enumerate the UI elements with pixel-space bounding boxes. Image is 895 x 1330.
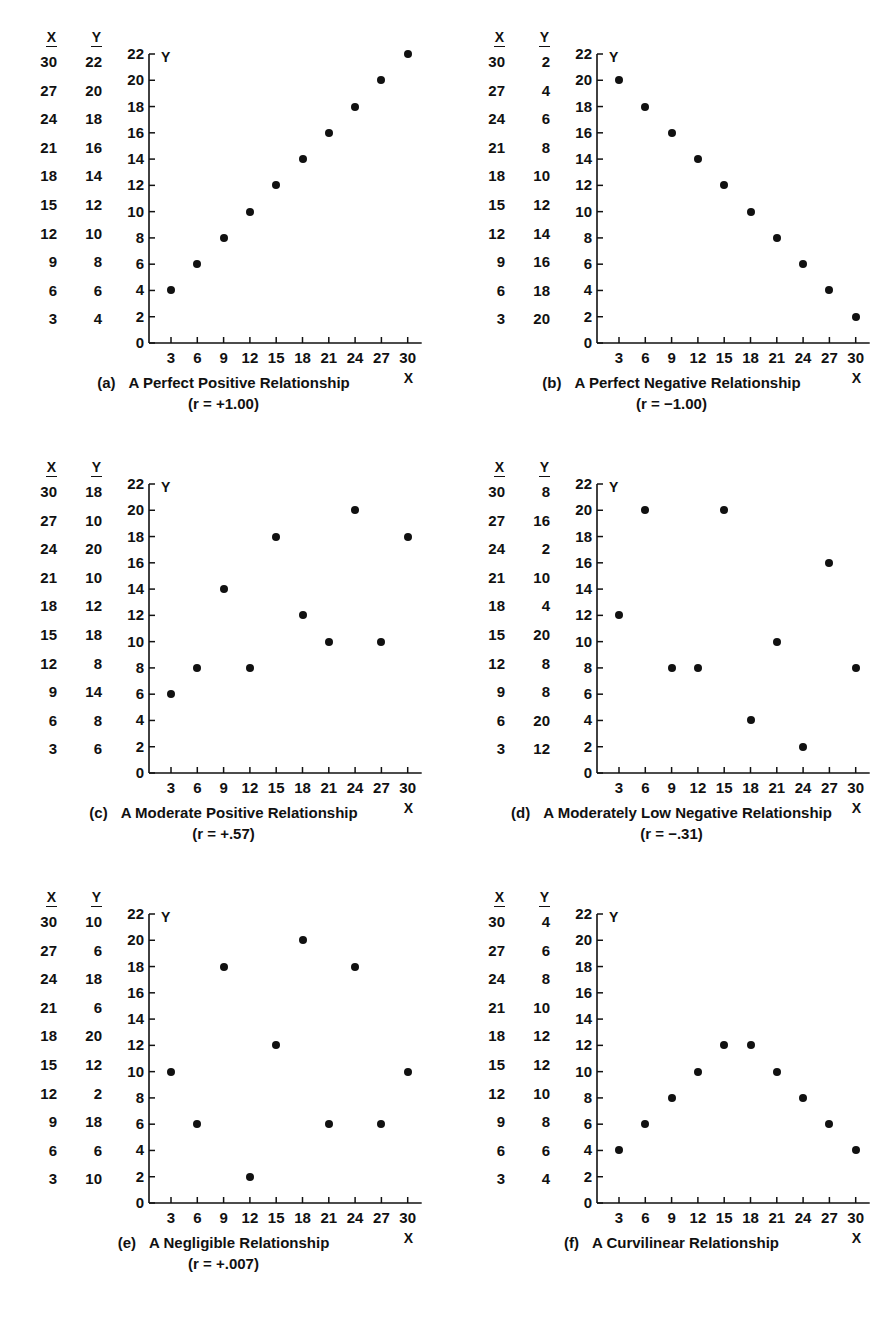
table-row: 2716 [466, 507, 558, 536]
cell-y: 10 [63, 564, 110, 593]
cell-x: 24 [18, 965, 63, 994]
x-tick-label: 12 [242, 782, 259, 794]
cell-y: 10 [511, 162, 558, 191]
table-row: 276 [18, 937, 110, 966]
data-point [377, 638, 385, 646]
x-tick-label: 30 [847, 782, 864, 794]
data-point [852, 664, 860, 672]
table-row: 1810 [466, 162, 558, 191]
column-header-y: Y [63, 456, 110, 478]
cell-y: 14 [63, 162, 110, 191]
cell-y: 2 [63, 1080, 110, 1109]
cell-y: 22 [63, 48, 110, 77]
cell-x: 30 [466, 908, 511, 937]
figure-grid: XY30222720241821161814151212109866340246… [0, 0, 895, 1330]
cell-y: 16 [63, 134, 110, 163]
table-row: 216 [18, 994, 110, 1023]
x-axis-tick-labels: 36912151821242730 [118, 890, 428, 1220]
data-point [351, 506, 359, 514]
x-tick-label: 12 [242, 1212, 259, 1224]
data-point [852, 313, 860, 321]
cell-x: 21 [18, 994, 63, 1023]
x-tick-label: 3 [615, 782, 623, 794]
cell-x: 9 [18, 678, 63, 707]
data-point [799, 260, 807, 268]
data-point [747, 1041, 755, 1049]
data-point [641, 103, 649, 111]
column-header-x: X [466, 26, 511, 48]
cell-y: 18 [63, 621, 110, 650]
table-row: 122 [18, 1080, 110, 1109]
cell-y: 4 [511, 77, 558, 106]
data-point [668, 664, 676, 672]
table-row: 914 [18, 678, 110, 707]
table-row: 312 [466, 735, 558, 764]
y-axis-label: Y [161, 911, 170, 923]
table-row: 304 [466, 908, 558, 937]
data-table-a: XY3022272024182116181415121210986634 [18, 26, 110, 334]
scatterplot-a: 024681012141618202236912151821242730YX [118, 30, 428, 360]
x-tick-label: 21 [320, 1212, 337, 1224]
x-tick-label: 15 [268, 1212, 285, 1224]
xy-table: XY3018271024202110181215181289146836 [18, 456, 110, 764]
panel-caption-f: (f)A Curvilinear Relationship [448, 1232, 895, 1253]
x-tick-label: 18 [294, 352, 311, 364]
cell-x: 27 [18, 77, 63, 106]
data-point [272, 181, 280, 189]
data-point [351, 103, 359, 111]
table-row: 1512 [466, 191, 558, 220]
table-row: 2710 [18, 507, 110, 536]
data-point [720, 506, 728, 514]
cell-y: 8 [511, 478, 558, 507]
x-tick-label: 27 [821, 782, 838, 794]
scatterplot-b: 024681012141618202236912151821242730YX [566, 30, 876, 360]
data-table-f: XY3042762482110181215121210986634 [466, 886, 558, 1194]
table-row: 218 [466, 134, 558, 163]
x-tick-label: 9 [667, 352, 675, 364]
table-row: 3018 [18, 478, 110, 507]
x-tick-label: 12 [242, 352, 259, 364]
panel-c: XY30182710242021101812151812891468360246… [0, 430, 447, 860]
panel-caption-e: (e)A Negligible Relationship(r = +.007) [0, 1232, 447, 1274]
panel-caption-d: (d)A Moderately Low Negative Relationshi… [448, 802, 895, 844]
column-header-x: X [18, 456, 63, 478]
data-point [167, 286, 175, 294]
data-point [615, 76, 623, 84]
panel-title: A Moderately Low Negative Relationship [543, 804, 832, 821]
x-tick-label: 30 [399, 782, 416, 794]
table-row: 1214 [466, 220, 558, 249]
table-row: 1512 [466, 1051, 558, 1080]
data-point [720, 181, 728, 189]
cell-x: 27 [466, 77, 511, 106]
cell-y: 4 [511, 1165, 558, 1194]
cell-y: 14 [511, 220, 558, 249]
cell-y: 4 [511, 908, 558, 937]
cell-y: 8 [63, 248, 110, 277]
data-point [193, 1120, 201, 1128]
data-point [193, 664, 201, 672]
x-tick-label: 21 [320, 782, 337, 794]
panel-letter: (e) [118, 1232, 136, 1253]
cell-x: 12 [18, 220, 63, 249]
cell-y: 4 [63, 305, 110, 334]
cell-x: 9 [466, 1108, 511, 1137]
data-point [272, 533, 280, 541]
x-tick-label: 3 [615, 352, 623, 364]
data-point [377, 76, 385, 84]
cell-y: 10 [63, 1165, 110, 1194]
cell-y: 20 [63, 1022, 110, 1051]
data-point [220, 234, 228, 242]
x-tick-label: 9 [667, 1212, 675, 1224]
table-row: 620 [466, 707, 558, 736]
cell-x: 12 [466, 650, 511, 679]
panel-title: A Negligible Relationship [149, 1234, 329, 1251]
cell-x: 12 [466, 220, 511, 249]
data-point [246, 664, 254, 672]
column-header-y: Y [511, 456, 558, 478]
table-row: 2418 [18, 105, 110, 134]
cell-x: 9 [466, 678, 511, 707]
cell-y: 8 [511, 134, 558, 163]
cell-x: 21 [18, 134, 63, 163]
x-tick-label: 21 [768, 352, 785, 364]
cell-y: 8 [511, 650, 558, 679]
